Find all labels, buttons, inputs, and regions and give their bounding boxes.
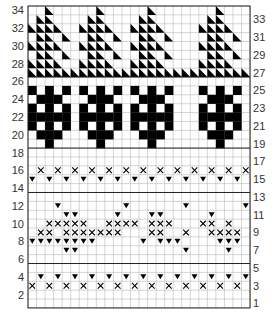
triangle-stitch-icon (89, 239, 95, 244)
row-number-label: 21 (253, 120, 265, 132)
triangle-stitch-icon (243, 203, 249, 208)
triangle-stitch-icon (192, 274, 198, 279)
diagonal-triangle-icon (45, 6, 54, 15)
filled-cell (105, 130, 114, 139)
triangle-stitch-icon (174, 274, 180, 279)
triangle-stitch-icon (157, 212, 163, 217)
cross-stitch-icon (175, 167, 181, 173)
triangle-stitch-icon (183, 177, 189, 182)
filled-cell (165, 121, 174, 130)
diagonal-triangle-icon (113, 33, 122, 42)
diagonal-triangle-icon (148, 24, 157, 33)
diagonal-triangle-icon (105, 68, 114, 77)
cross-stitch-icon (166, 283, 172, 289)
filled-cell (233, 86, 242, 95)
cross-stitch-icon (123, 221, 129, 227)
filled-cell (79, 113, 88, 122)
triangle-stitch-icon (157, 274, 163, 279)
diagonal-triangle-icon (88, 15, 97, 24)
filled-cell (88, 113, 97, 122)
diagonal-triangle-icon (130, 42, 139, 51)
cross-stitch-icon (217, 283, 223, 289)
cross-stitch-icon (64, 230, 70, 236)
diagonal-triangle-icon (199, 42, 208, 51)
filled-cell (105, 113, 114, 122)
diagonal-triangle-icon (156, 59, 165, 68)
cross-stitch-icon (140, 167, 146, 173)
filled-cell (45, 86, 54, 95)
diagonal-triangle-icon (207, 42, 216, 51)
filled-cell (233, 104, 242, 113)
filled-cell (165, 86, 174, 95)
cross-stitch-icon (149, 221, 155, 227)
filled-cell (113, 121, 122, 130)
cross-stitch-icon (192, 167, 198, 173)
diagonal-triangle-icon (148, 50, 157, 59)
diagonal-triangle-icon (79, 68, 88, 77)
diagonal-triangle-icon (79, 24, 88, 33)
diagonal-triangle-icon (37, 50, 46, 59)
cross-stitch-icon (183, 230, 189, 236)
row-number-label: 22 (12, 111, 24, 123)
diagonal-triangle-icon (165, 50, 174, 59)
diagonal-triangle-icon (156, 42, 165, 51)
triangle-stitch-icon (72, 274, 78, 279)
filled-cell (233, 121, 242, 130)
row-number-label: 4 (18, 271, 24, 283)
diagonal-triangle-icon (88, 50, 97, 59)
filled-cell (199, 121, 208, 130)
triangle-stitch-icon (149, 177, 155, 182)
diagonal-triangle-icon (148, 68, 157, 77)
cross-stitch-icon (115, 230, 121, 236)
filled-cell (45, 139, 54, 148)
cross-stitch-icon (29, 283, 35, 289)
cross-stitch-icon (226, 167, 232, 173)
triangle-stitch-icon (166, 177, 172, 182)
cross-stitch-icon (158, 221, 164, 227)
row-number-label: 23 (253, 102, 265, 114)
triangle-stitch-icon (183, 203, 189, 208)
triangle-stitch-icon (234, 177, 240, 182)
diagonal-triangle-icon (105, 42, 114, 51)
diagonal-triangle-icon (96, 50, 105, 59)
triangle-stitch-icon (226, 239, 232, 244)
filled-cell (96, 121, 105, 130)
diagonal-triangle-icon (96, 42, 105, 51)
diagonal-triangle-icon (139, 59, 148, 68)
diagonal-triangle-icon (96, 68, 105, 77)
triangle-stitch-icon (46, 177, 52, 182)
filled-cell (216, 130, 225, 139)
triangle-stitch-icon (81, 177, 87, 182)
filled-cell (54, 113, 63, 122)
cross-stitch-icon (72, 221, 78, 227)
filled-cell (165, 104, 174, 113)
cross-stitch-icon (209, 221, 215, 227)
cross-stitch-icon (115, 221, 121, 227)
filled-cell (54, 130, 63, 139)
diagonal-triangle-icon (216, 33, 225, 42)
diagonal-triangle-icon (88, 68, 97, 77)
triangle-stitch-icon (140, 274, 146, 279)
row-number-label: 25 (253, 84, 265, 96)
diagonal-triangle-icon (139, 24, 148, 33)
triangle-stitch-icon (132, 177, 138, 182)
filled-cell (148, 86, 157, 95)
cross-stitch-icon (47, 221, 53, 227)
row-number-label: 3 (253, 280, 259, 292)
triangle-stitch-icon (29, 239, 35, 244)
filled-cell (62, 121, 71, 130)
cross-stitch-icon (115, 283, 121, 289)
cross-stitch-icon (123, 167, 129, 173)
cross-stitch-icon (226, 230, 232, 236)
triangle-stitch-icon (217, 239, 223, 244)
diagonal-triangle-icon (96, 24, 105, 33)
triangle-stitch-icon (217, 177, 223, 182)
filled-cell (130, 86, 139, 95)
filled-cell (148, 121, 157, 130)
diagonal-triangle-icon (182, 68, 191, 77)
filled-cell (45, 130, 54, 139)
triangle-stitch-icon (55, 274, 61, 279)
diagonal-triangle-icon (105, 24, 114, 33)
cross-stitch-icon (200, 283, 206, 289)
diagonal-triangle-icon (224, 68, 233, 77)
